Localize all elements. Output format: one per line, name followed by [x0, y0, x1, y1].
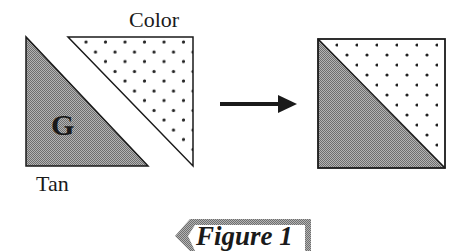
- right-arrow-icon: [220, 95, 297, 113]
- result-square: [318, 39, 445, 168]
- g-label: G: [51, 108, 74, 142]
- diagram-canvas: Color Tan G Figure 1: [0, 0, 473, 251]
- color-label: Color: [129, 7, 179, 33]
- figure-caption: Figure 1: [196, 221, 293, 251]
- tan-label: Tan: [36, 171, 69, 197]
